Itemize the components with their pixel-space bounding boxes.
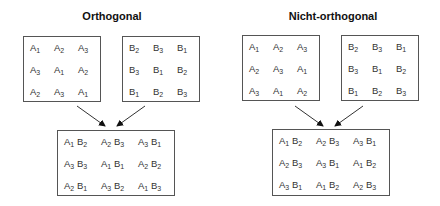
- arrow-left-b: [117, 106, 145, 126]
- arrow-right-b: [335, 106, 363, 126]
- arrow-right-a: [295, 106, 323, 126]
- arrows: [0, 0, 440, 206]
- arrow-left-a: [77, 106, 105, 126]
